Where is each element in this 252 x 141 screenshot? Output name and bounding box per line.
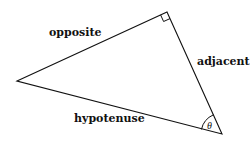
adjacent-label: adjacent	[197, 55, 250, 68]
hypotenuse-label: hypotenuse	[74, 112, 145, 125]
theta-label: θ	[207, 120, 212, 131]
opposite-label: opposite	[49, 26, 102, 39]
right-triangle-diagram: opposite adjacent hypotenuse θ	[0, 0, 252, 141]
